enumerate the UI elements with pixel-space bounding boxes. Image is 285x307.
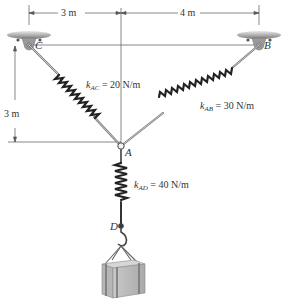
spring-ac-value: = 20 N/m <box>102 79 140 90</box>
hook-d <box>118 224 126 246</box>
spring-ad-subscript: AD <box>138 184 147 192</box>
spring-ad-label: kAD = 40 N/m <box>134 180 189 192</box>
spring-ac-subscript: AC <box>90 84 99 92</box>
spring-ab-subscript: AB <box>204 105 213 113</box>
point-a-label: A <box>125 147 132 158</box>
spring-ab-value: = 30 N/m <box>216 100 254 111</box>
diagram-canvas <box>0 0 285 307</box>
dimension-3m-vertical: 3 m <box>4 109 19 119</box>
spring-ac-label: kAC = 20 N/m <box>86 80 140 92</box>
spring-ad-value: = 40 N/m <box>150 179 188 190</box>
dimension-4m-horizontal: 4 m <box>180 8 195 18</box>
support-c <box>7 31 51 50</box>
support-b <box>237 31 281 50</box>
spring-ac <box>29 45 121 146</box>
dimension-3m-horizontal: 3 m <box>61 8 76 18</box>
spring-ad <box>115 148 127 225</box>
point-d-label: D <box>110 221 118 232</box>
point-c-label: C <box>35 40 42 51</box>
vertical-dimension <box>8 45 259 142</box>
ring-a <box>118 143 124 149</box>
point-b-label: B <box>264 40 271 51</box>
crate <box>102 260 145 298</box>
spring-ab-label: kAB = 30 N/m <box>200 101 254 113</box>
spring-ab <box>121 45 259 146</box>
